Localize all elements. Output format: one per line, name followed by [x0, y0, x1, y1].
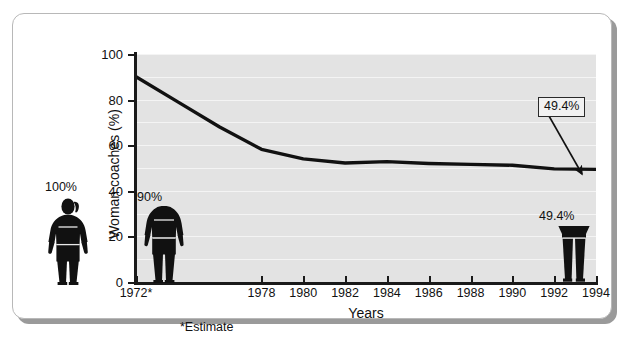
y-axis-title: Woman coaches (%) [106, 109, 122, 239]
x-tick-label: 1986 [415, 286, 443, 300]
x-tick-label: 1994 [582, 286, 610, 300]
callout-arrow-icon [528, 112, 598, 184]
x-tick-label: 1992 [540, 286, 568, 300]
woman-figure-90-icon [139, 203, 189, 283]
x-tick-label: 1990 [498, 286, 526, 300]
x-tick-mark [596, 276, 598, 282]
figure-49-label: 49.4% [539, 209, 574, 223]
chart-screenshot: 020406080100 1972*1978198019821984198619… [0, 0, 628, 347]
x-tick-mark [136, 276, 138, 282]
x-tick-mark [471, 276, 473, 282]
x-tick-mark [345, 276, 347, 282]
x-tick-mark [387, 276, 389, 282]
footnote-estimate: *Estimate [180, 320, 234, 334]
x-tick-label: 1988 [457, 286, 485, 300]
figure-100-label: 100% [45, 180, 77, 194]
y-tick-label: 100 [91, 47, 123, 62]
figure-90-label: 90% [137, 190, 162, 204]
y-tick-label: 80 [91, 92, 123, 107]
woman-figure-100-icon [40, 197, 96, 285]
chart-card: 020406080100 1972*1978198019821984198619… [12, 13, 612, 319]
callout-label-494: 49.4% [538, 97, 585, 117]
y-tick-mark [128, 282, 134, 284]
y-tick-mark [128, 145, 134, 147]
x-tick-mark [429, 276, 431, 282]
y-tick-mark [128, 236, 134, 238]
y-tick-mark [128, 191, 134, 193]
x-tick-mark [261, 276, 263, 282]
y-tick-mark [128, 54, 134, 56]
x-axis-line [134, 282, 598, 285]
x-tick-label: 1984 [373, 286, 401, 300]
x-tick-label: 1972* [120, 286, 153, 300]
x-tick-mark [303, 276, 305, 282]
data-line [136, 54, 596, 282]
y-tick-mark [128, 100, 134, 102]
woman-figure-49-icon [553, 224, 595, 282]
x-axis-title: Years [348, 305, 383, 321]
x-tick-label: 1980 [289, 286, 317, 300]
x-tick-mark [512, 276, 514, 282]
x-tick-label: 1978 [248, 286, 276, 300]
y-axis-line [134, 52, 137, 284]
x-tick-label: 1982 [331, 286, 359, 300]
